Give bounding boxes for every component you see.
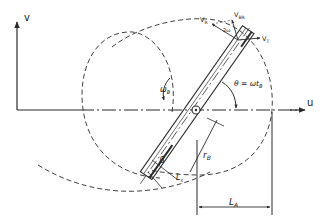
v-axis	[17, 22, 80, 110]
l-a-label: LA	[229, 197, 238, 208]
trajectory-curves	[38, 19, 272, 192]
pivot-center	[195, 109, 197, 111]
omega-b-label: ωB	[160, 85, 171, 95]
r-b-dimension	[190, 120, 217, 172]
diagram-canvas: v u ωB θ = ωtB rB LA β Ls	[0, 0, 327, 224]
kinematics-diagram: v u ωB θ = ωtB rB LA β Ls	[0, 0, 327, 224]
beta-label: β	[158, 155, 165, 165]
u-axis-label: u	[307, 97, 313, 108]
velocity-vectors	[212, 20, 260, 40]
l-s-label: Ls	[176, 173, 183, 183]
v-br-label: VBR	[234, 11, 245, 20]
r-b-label: rB	[203, 150, 211, 161]
v-t-label: VT	[262, 35, 269, 44]
tip-angle-label: 2ω	[223, 27, 230, 33]
v-r-label: VR	[200, 16, 208, 25]
v-axis-label: v	[24, 12, 30, 23]
theta-label: θ = ωtB	[234, 79, 263, 89]
